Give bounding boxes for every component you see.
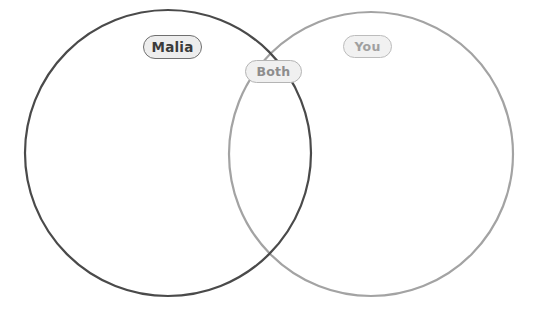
venn-label-you[interactable]: You bbox=[343, 35, 392, 58]
venn-label-malia-text: Malia bbox=[152, 39, 194, 55]
venn-diagram: Malia Both You bbox=[0, 0, 543, 318]
venn-label-both[interactable]: Both bbox=[245, 60, 302, 83]
venn-circles-canvas bbox=[0, 0, 543, 318]
venn-label-both-text: Both bbox=[257, 64, 291, 79]
venn-label-you-text: You bbox=[355, 39, 381, 54]
venn-label-malia[interactable]: Malia bbox=[143, 35, 202, 59]
